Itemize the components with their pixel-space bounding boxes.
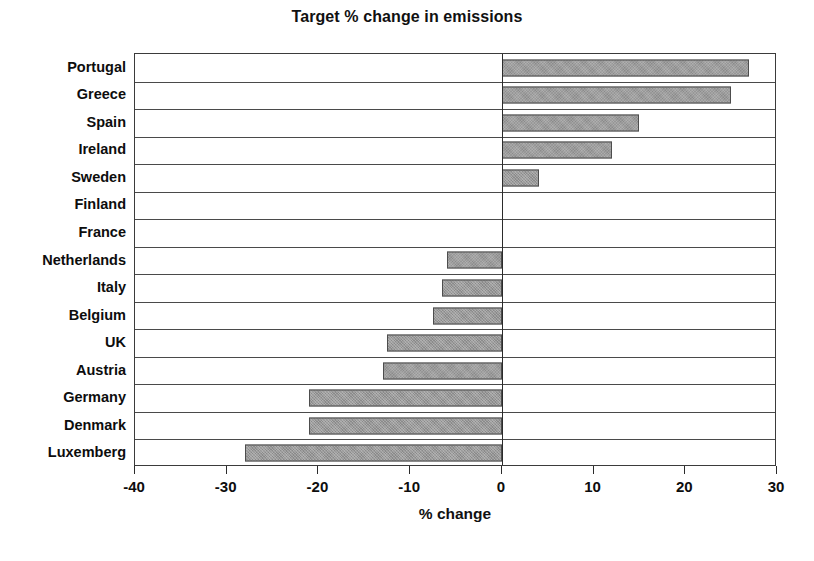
- bar-row: [135, 82, 775, 110]
- x-tick-label: 30: [768, 478, 785, 495]
- x-tick-mark: [776, 466, 777, 474]
- category-label: Belgium: [0, 308, 126, 323]
- category-label: Portugal: [0, 60, 126, 75]
- bar-row: [135, 439, 775, 467]
- x-tick-label: -20: [307, 478, 329, 495]
- category-label: Denmark: [0, 418, 126, 433]
- category-label: Italy: [0, 280, 126, 295]
- plot-area: [134, 53, 776, 466]
- bar: [447, 252, 502, 269]
- bar: [433, 307, 502, 324]
- x-tick-mark: [593, 466, 594, 474]
- bar-row: [135, 109, 775, 137]
- x-tick-label: 20: [676, 478, 693, 495]
- x-tick-mark: [226, 466, 227, 474]
- x-tick-label: -10: [398, 478, 420, 495]
- x-tick-mark: [317, 466, 318, 474]
- x-tick-mark: [134, 466, 135, 474]
- bar: [502, 114, 640, 131]
- category-label: UK: [0, 335, 126, 350]
- x-tick-label: 0: [497, 478, 505, 495]
- bar: [245, 445, 502, 462]
- x-axis-title: % change: [134, 505, 776, 523]
- x-tick-label: -40: [123, 478, 145, 495]
- x-tick-mark: [684, 466, 685, 474]
- bar: [502, 142, 612, 159]
- bar-row: [135, 412, 775, 440]
- category-label: Spain: [0, 115, 126, 130]
- bar-row: [135, 54, 775, 82]
- bar-row: [135, 137, 775, 165]
- chart-title: Target % change in emissions: [0, 8, 814, 26]
- bar: [502, 87, 731, 104]
- bar: [387, 335, 502, 352]
- category-label: Luxemberg: [0, 445, 126, 460]
- bar: [442, 280, 502, 297]
- bar-row: [135, 247, 775, 275]
- x-tick-mark: [501, 466, 502, 474]
- x-tick-label: -30: [215, 478, 237, 495]
- category-label: Finland: [0, 197, 126, 212]
- category-label: Greece: [0, 87, 126, 102]
- bar-row: [135, 329, 775, 357]
- bar-row: [135, 219, 775, 247]
- category-label: Ireland: [0, 142, 126, 157]
- category-label: France: [0, 225, 126, 240]
- bar: [383, 362, 502, 379]
- zero-axis-line: [502, 54, 503, 465]
- bar: [309, 417, 502, 434]
- x-tick-mark: [409, 466, 410, 474]
- chart-figure: Target % change in emissions PortugalGre…: [0, 0, 814, 561]
- bar-row: [135, 384, 775, 412]
- category-label: Sweden: [0, 170, 126, 185]
- category-label: Germany: [0, 390, 126, 405]
- bar: [502, 59, 750, 76]
- category-label: Austria: [0, 363, 126, 378]
- bar: [309, 390, 502, 407]
- category-label: Netherlands: [0, 253, 126, 268]
- bar-row: [135, 302, 775, 330]
- bar-row: [135, 357, 775, 385]
- bar-row: [135, 274, 775, 302]
- bar: [502, 169, 539, 186]
- bar-row: [135, 192, 775, 220]
- x-axis: -40-30-20-100102030: [134, 466, 776, 467]
- x-tick-label: 10: [584, 478, 601, 495]
- bar-row: [135, 164, 775, 192]
